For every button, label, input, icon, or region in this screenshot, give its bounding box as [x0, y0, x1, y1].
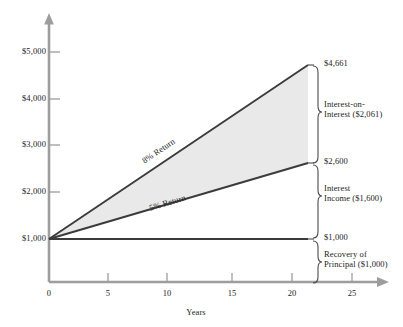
x-tick-label-25: 25 [342, 288, 362, 298]
x-axis-arrowhead [377, 277, 389, 287]
annotation-recovery-of-principal-line2: Principal ($1,000) [324, 259, 388, 269]
y-axis-ticks [49, 52, 60, 192]
annotation-interest-income: Interest Income ($1,600) [324, 183, 382, 203]
brace-interest-on-interest [313, 66, 322, 163]
y-axis-arrowhead [44, 13, 54, 25]
y-tick-label-3000: $3,000 [6, 139, 46, 149]
x-tick-label-0: 0 [39, 288, 59, 298]
annotation-interest-on-interest: Interest-on- Interest ($2,061) [324, 99, 382, 119]
annotation-interest-on-interest-line1: Interest-on- [324, 99, 382, 109]
y-tick-label-2000: $2,000 [6, 186, 46, 196]
x-tick-label-15: 15 [222, 288, 242, 298]
brace-interest-income [313, 165, 322, 238]
x-axis-ticks [108, 273, 352, 282]
annotation-interest-on-interest-line2: Interest ($2,061) [324, 109, 382, 119]
x-axis-title: Years [166, 307, 226, 317]
x-tick-label-20: 20 [282, 288, 302, 298]
x-tick-label-10: 10 [157, 288, 177, 298]
investment-growth-chart: $5,000 $4,000 $3,000 $2,000 $1,000 0 5 1… [0, 0, 403, 327]
y-tick-label-4000: $4,000 [6, 93, 46, 103]
annotation-interest-income-line2: Income ($1,600) [324, 193, 382, 203]
x-tick-label-5: 5 [98, 288, 118, 298]
annotation-recovery-of-principal-line1: Recovery of [324, 249, 388, 259]
y-tick-label-1000: $1,000 [6, 233, 46, 243]
y-tick-label-5000: $5,000 [6, 46, 46, 56]
annotation-interest-income-line1: Interest [324, 183, 382, 193]
brace-recovery-of-principal [313, 241, 322, 283]
brace-connectors [308, 65, 314, 239]
annotation-recovery-of-principal: Recovery of Principal ($1,000) [324, 249, 388, 269]
value-label-4661: $4,661 [324, 58, 348, 68]
value-label-2600: $2,600 [324, 156, 348, 166]
value-label-1000: $1,000 [324, 232, 348, 242]
